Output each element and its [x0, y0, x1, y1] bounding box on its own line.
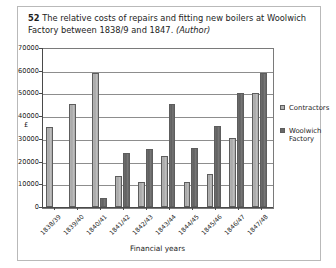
y-tick-label: 30000 [18, 135, 39, 143]
legend-label: Woolwich Factory [289, 127, 321, 144]
bar-group [226, 48, 249, 207]
caption-text: The relative costs of repairs and fittin… [28, 13, 306, 35]
y-tick-label: 60000 [18, 67, 39, 75]
x-tick-label: 1843/44 [154, 213, 177, 236]
bar-woolwich-factory [123, 153, 130, 208]
bar-woolwich-factory [169, 104, 176, 207]
x-tick-mark [77, 207, 78, 210]
x-tick-mark [261, 207, 262, 210]
bar-series-container [43, 48, 272, 207]
figure-number: 52 [28, 13, 40, 23]
bar-chart: 010000200003000040000500006000070000 £ 1… [28, 41, 320, 255]
bar-group [43, 48, 66, 207]
bar-contractors [46, 127, 53, 207]
x-tick-label: 1847/48 [245, 213, 268, 236]
x-tick-label: 1846/47 [222, 213, 245, 236]
bar-contractors [252, 93, 259, 207]
y-tick-mark [39, 162, 42, 163]
bar-group [203, 48, 226, 207]
x-axis-title: Financial years [42, 244, 273, 253]
bar-contractors [92, 73, 99, 207]
caption-source: (Author) [176, 25, 210, 35]
x-tick-label: 1845/46 [200, 213, 223, 236]
bar-contractors [207, 174, 214, 207]
y-tick-mark [39, 48, 42, 49]
x-tick-mark [146, 207, 147, 210]
y-tick-mark [39, 184, 42, 185]
bar-woolwich-factory [191, 148, 198, 207]
bar-contractors [161, 156, 168, 207]
bar-group [135, 48, 158, 207]
bar-woolwich-factory [100, 198, 107, 207]
y-tick-mark [39, 71, 42, 72]
bar-woolwich-factory [237, 93, 244, 207]
y-tick-label: 70000 [18, 44, 39, 52]
legend-swatch-icon [280, 128, 285, 133]
y-tick-mark [39, 116, 42, 117]
x-tick-label: 1841/42 [108, 213, 131, 236]
bar-group [158, 48, 181, 207]
bar-woolwich-factory [260, 73, 267, 207]
bar-contractors [115, 176, 122, 207]
y-tick-label: 20000 [18, 158, 39, 166]
y-axis-title: £ [24, 121, 28, 129]
x-tick-label: 1838/39 [39, 213, 62, 236]
x-tick-mark [238, 207, 239, 210]
legend-item-contractors: Contractors [280, 104, 336, 113]
y-tick-label: 40000 [18, 112, 39, 120]
bar-group [66, 48, 89, 207]
x-tick-mark [215, 207, 216, 210]
y-tick-mark [39, 207, 42, 208]
x-tick-label: 1844/45 [177, 213, 200, 236]
bar-group [249, 48, 272, 207]
y-tick-label: 10000 [18, 180, 39, 188]
bar-group [180, 48, 203, 207]
x-tick-mark [192, 207, 193, 210]
bar-group [89, 48, 112, 207]
x-tick-label: 1839/40 [62, 213, 85, 236]
x-tick-mark [123, 207, 124, 210]
figure-container: 52 The relative costs of repairs and fit… [0, 0, 336, 268]
legend-item-woolwich-factory: Woolwich Factory [280, 127, 336, 144]
x-tick-mark [100, 207, 101, 210]
figure-caption: 52 The relative costs of repairs and fit… [28, 12, 314, 37]
bar-woolwich-factory [214, 126, 221, 207]
bar-contractors [229, 138, 236, 207]
bar-group [112, 48, 135, 207]
bar-contractors [184, 182, 191, 207]
y-tick-mark [39, 93, 42, 94]
x-tick-mark [169, 207, 170, 210]
chart-legend: Contractors Woolwich Factory [280, 104, 336, 158]
legend-label: Contractors [289, 104, 329, 112]
bar-contractors [138, 182, 145, 207]
y-tick-label: 50000 [18, 89, 39, 97]
y-tick-mark [39, 139, 42, 140]
y-tick-label: 0 [35, 203, 39, 211]
x-tick-mark [54, 207, 55, 210]
x-tick-label: 1842/43 [131, 213, 154, 236]
legend-swatch-icon [280, 105, 285, 110]
x-tick-label: 1840/41 [85, 213, 108, 236]
bar-contractors [69, 104, 76, 207]
bar-woolwich-factory [146, 149, 153, 207]
